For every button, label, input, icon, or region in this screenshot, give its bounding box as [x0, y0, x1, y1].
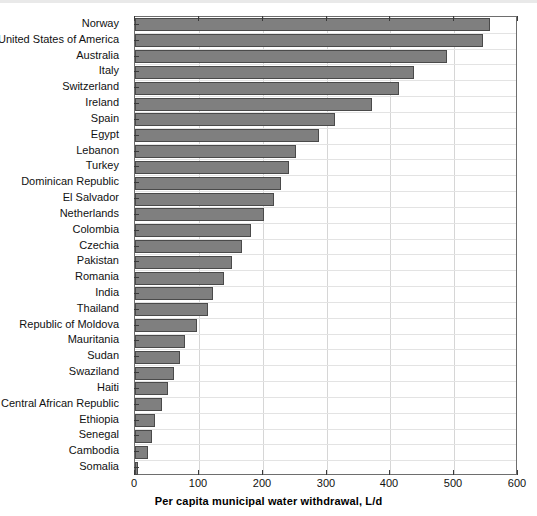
y-axis-tick: [134, 261, 139, 262]
x-axis-title: Per capita municipal water withdrawal, L…: [0, 495, 537, 507]
x-axis-tick-label: 100: [168, 477, 228, 489]
y-axis-tick: [134, 309, 139, 310]
x-axis-tick-label: 500: [423, 477, 483, 489]
x-axis-tick: [262, 470, 263, 475]
y-axis-tick: [134, 451, 139, 452]
y-axis-tick: [134, 182, 139, 183]
y-axis-tick: [134, 230, 139, 231]
chart-figure: NorwayUnited States of AmericaAustraliaI…: [0, 0, 537, 516]
y-axis-tick: [134, 246, 139, 247]
y-axis-tick: [134, 166, 139, 167]
y-axis-tick: [134, 119, 139, 120]
y-axis-tick: [134, 467, 139, 468]
y-axis-tick: [134, 404, 139, 405]
x-axis-tick-label: 300: [296, 477, 356, 489]
y-axis-tick: [134, 356, 139, 357]
x-axis-tick: [198, 470, 199, 475]
y-axis-tick: [134, 103, 139, 104]
y-axis-tick: [134, 293, 139, 294]
x-axis-tick: [134, 470, 135, 475]
y-axis-tick: [134, 214, 139, 215]
y-axis-tick: [134, 198, 139, 199]
x-axis-tick-top: [326, 16, 327, 21]
x-axis-tick-top: [134, 16, 135, 21]
x-axis-tick: [453, 470, 454, 475]
y-axis-tick: [134, 388, 139, 389]
x-axis-tick-label: 400: [359, 477, 419, 489]
x-axis-tick-label: 600: [487, 477, 537, 489]
y-axis-tick: [134, 435, 139, 436]
x-axis-tick-label: 0: [104, 477, 164, 489]
y-axis-tick: [134, 40, 139, 41]
y-axis-tick: [134, 340, 139, 341]
y-axis-tick: [134, 325, 139, 326]
y-axis-tick: [134, 87, 139, 88]
y-axis-tick: [134, 277, 139, 278]
x-axis-tick-label: 200: [232, 477, 292, 489]
x-axis-tick: [389, 470, 390, 475]
x-axis-tick-top: [453, 16, 454, 21]
y-axis-tick: [134, 56, 139, 57]
y-axis-tick: [134, 151, 139, 152]
x-axis-tick: [517, 470, 518, 475]
y-axis-tick: [134, 24, 139, 25]
x-axis-tick: [326, 470, 327, 475]
y-axis-tick: [134, 135, 139, 136]
x-axis-tick-top: [517, 16, 518, 21]
y-axis-tick: [134, 372, 139, 373]
y-axis-tick: [134, 71, 139, 72]
y-axis-tick: [134, 420, 139, 421]
x-axis-ticks: 0100200300400500600: [0, 3, 537, 516]
x-axis-tick-top: [198, 16, 199, 21]
x-axis-tick-top: [389, 16, 390, 21]
x-axis-tick-top: [262, 16, 263, 21]
